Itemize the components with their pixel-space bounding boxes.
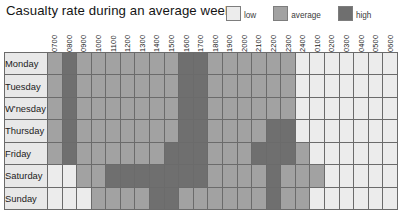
heatmap-cell[interactable] bbox=[383, 75, 398, 97]
heatmap-cell[interactable] bbox=[310, 120, 325, 142]
heatmap-cell[interactable] bbox=[193, 165, 208, 187]
heatmap-cell[interactable] bbox=[179, 142, 194, 164]
heatmap-cell[interactable] bbox=[324, 142, 339, 164]
heatmap-cell[interactable] bbox=[281, 53, 296, 75]
heatmap-cell[interactable] bbox=[135, 120, 150, 142]
heatmap-cell[interactable] bbox=[77, 53, 92, 75]
heatmap-cell[interactable] bbox=[383, 120, 398, 142]
heatmap-cell[interactable] bbox=[62, 53, 77, 75]
heatmap-cell[interactable] bbox=[164, 120, 179, 142]
heatmap-cell[interactable] bbox=[354, 97, 369, 119]
heatmap-cell[interactable] bbox=[237, 75, 252, 97]
heatmap-cell[interactable] bbox=[48, 165, 63, 187]
heatmap-cell[interactable] bbox=[252, 75, 267, 97]
heatmap-cell[interactable] bbox=[324, 120, 339, 142]
heatmap-cell[interactable] bbox=[62, 120, 77, 142]
heatmap-cell[interactable] bbox=[310, 165, 325, 187]
heatmap-cell[interactable] bbox=[164, 53, 179, 75]
heatmap-cell[interactable] bbox=[120, 120, 135, 142]
heatmap-cell[interactable] bbox=[266, 142, 281, 164]
heatmap-cell[interactable] bbox=[120, 75, 135, 97]
heatmap-cell[interactable] bbox=[281, 120, 296, 142]
heatmap-cell[interactable] bbox=[354, 142, 369, 164]
heatmap-cell[interactable] bbox=[266, 120, 281, 142]
heatmap-cell[interactable] bbox=[295, 187, 310, 209]
heatmap-cell[interactable] bbox=[266, 53, 281, 75]
heatmap-cell[interactable] bbox=[310, 53, 325, 75]
heatmap-cell[interactable] bbox=[62, 142, 77, 164]
heatmap-cell[interactable] bbox=[120, 97, 135, 119]
heatmap-cell[interactable] bbox=[266, 97, 281, 119]
heatmap-cell[interactable] bbox=[237, 165, 252, 187]
heatmap-cell[interactable] bbox=[135, 97, 150, 119]
heatmap-cell[interactable] bbox=[310, 75, 325, 97]
heatmap-cell[interactable] bbox=[106, 53, 121, 75]
heatmap-cell[interactable] bbox=[252, 142, 267, 164]
heatmap-cell[interactable] bbox=[62, 75, 77, 97]
heatmap-cell[interactable] bbox=[368, 75, 383, 97]
heatmap-cell[interactable] bbox=[295, 165, 310, 187]
heatmap-cell[interactable] bbox=[237, 120, 252, 142]
heatmap-cell[interactable] bbox=[77, 97, 92, 119]
heatmap-cell[interactable] bbox=[48, 75, 63, 97]
heatmap-cell[interactable] bbox=[77, 142, 92, 164]
heatmap-cell[interactable] bbox=[222, 187, 237, 209]
heatmap-cell[interactable] bbox=[354, 165, 369, 187]
heatmap-cell[interactable] bbox=[120, 142, 135, 164]
heatmap-cell[interactable] bbox=[368, 187, 383, 209]
heatmap-cell[interactable] bbox=[208, 187, 223, 209]
heatmap-cell[interactable] bbox=[222, 53, 237, 75]
heatmap-cell[interactable] bbox=[266, 187, 281, 209]
heatmap-cell[interactable] bbox=[222, 75, 237, 97]
heatmap-cell[interactable] bbox=[368, 120, 383, 142]
heatmap-cell[interactable] bbox=[150, 165, 165, 187]
heatmap-cell[interactable] bbox=[208, 53, 223, 75]
heatmap-cell[interactable] bbox=[120, 187, 135, 209]
heatmap-cell[interactable] bbox=[150, 53, 165, 75]
heatmap-cell[interactable] bbox=[354, 53, 369, 75]
heatmap-cell[interactable] bbox=[368, 142, 383, 164]
heatmap-cell[interactable] bbox=[310, 97, 325, 119]
heatmap-cell[interactable] bbox=[252, 120, 267, 142]
heatmap-cell[interactable] bbox=[77, 165, 92, 187]
heatmap-cell[interactable] bbox=[208, 75, 223, 97]
heatmap-cell[interactable] bbox=[339, 142, 354, 164]
heatmap-cell[interactable] bbox=[368, 53, 383, 75]
heatmap-cell[interactable] bbox=[164, 187, 179, 209]
heatmap-cell[interactable] bbox=[222, 120, 237, 142]
heatmap-cell[interactable] bbox=[48, 120, 63, 142]
heatmap-cell[interactable] bbox=[179, 53, 194, 75]
heatmap-cell[interactable] bbox=[339, 75, 354, 97]
heatmap-cell[interactable] bbox=[324, 53, 339, 75]
heatmap-cell[interactable] bbox=[91, 165, 106, 187]
heatmap-cell[interactable] bbox=[77, 187, 92, 209]
heatmap-cell[interactable] bbox=[208, 165, 223, 187]
heatmap-cell[interactable] bbox=[135, 53, 150, 75]
heatmap-cell[interactable] bbox=[237, 142, 252, 164]
heatmap-cell[interactable] bbox=[266, 165, 281, 187]
heatmap-cell[interactable] bbox=[339, 97, 354, 119]
heatmap-cell[interactable] bbox=[193, 187, 208, 209]
heatmap-cell[interactable] bbox=[295, 142, 310, 164]
heatmap-cell[interactable] bbox=[281, 187, 296, 209]
heatmap-cell[interactable] bbox=[48, 142, 63, 164]
heatmap-cell[interactable] bbox=[164, 165, 179, 187]
heatmap-cell[interactable] bbox=[354, 120, 369, 142]
heatmap-cell[interactable] bbox=[222, 97, 237, 119]
heatmap-cell[interactable] bbox=[179, 165, 194, 187]
heatmap-cell[interactable] bbox=[62, 187, 77, 209]
heatmap-cell[interactable] bbox=[324, 187, 339, 209]
heatmap-cell[interactable] bbox=[266, 75, 281, 97]
heatmap-cell[interactable] bbox=[179, 120, 194, 142]
heatmap-cell[interactable] bbox=[237, 187, 252, 209]
heatmap-cell[interactable] bbox=[48, 97, 63, 119]
heatmap-cell[interactable] bbox=[106, 142, 121, 164]
heatmap-cell[interactable] bbox=[310, 142, 325, 164]
heatmap-cell[interactable] bbox=[150, 187, 165, 209]
heatmap-cell[interactable] bbox=[354, 187, 369, 209]
heatmap-cell[interactable] bbox=[295, 120, 310, 142]
heatmap-cell[interactable] bbox=[135, 142, 150, 164]
heatmap-cell[interactable] bbox=[77, 75, 92, 97]
heatmap-cell[interactable] bbox=[281, 75, 296, 97]
heatmap-cell[interactable] bbox=[354, 75, 369, 97]
